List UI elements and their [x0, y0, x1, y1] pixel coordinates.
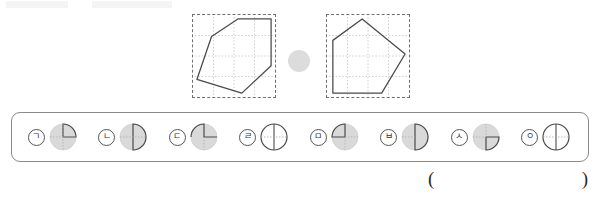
- choice-marker-8: ㅇ: [521, 129, 538, 146]
- grid-lines: [329, 17, 407, 95]
- choice-option-8[interactable]: ㅇ: [521, 121, 572, 153]
- pie-diagram-3: [188, 121, 220, 153]
- figure-right-pentagon: [326, 14, 410, 98]
- grid-lines: [195, 17, 273, 95]
- choice-option-2[interactable]: ㄴ: [98, 121, 149, 153]
- choice-option-1[interactable]: ㄱ: [28, 121, 79, 153]
- paren-open: (: [428, 168, 434, 190]
- choice-marker-5: ㅁ: [310, 129, 327, 146]
- worksheet-page: ㄱ ㄴ ㄷ: [0, 0, 602, 203]
- pie-diagram-7: [470, 121, 502, 153]
- choice-option-6[interactable]: ㅂ: [380, 121, 431, 153]
- choice-marker-1: ㄱ: [28, 129, 45, 146]
- choice-marker-4: ㄹ: [239, 129, 256, 146]
- figure-left-pentagon: [192, 14, 276, 98]
- choices-container: ㄱ ㄴ ㄷ: [11, 112, 589, 162]
- choice-marker-2: ㄴ: [98, 129, 115, 146]
- pie-diagram-6: [399, 121, 431, 153]
- choice-marker-7: ㅅ: [451, 129, 468, 146]
- pie-diagram-2: [117, 121, 149, 153]
- choices-row: ㄱ ㄴ ㄷ: [12, 113, 588, 161]
- answer-blank[interactable]: ( ): [428, 168, 588, 196]
- pie-diagram-4: [258, 121, 290, 153]
- choice-marker-6: ㅂ: [380, 129, 397, 146]
- pentagon-left-outline: [197, 19, 271, 93]
- choice-option-5[interactable]: ㅁ: [310, 121, 361, 153]
- pie-diagram-1: [47, 121, 79, 153]
- figures-area: [0, 8, 602, 104]
- dot-separator: [288, 50, 310, 72]
- choice-option-7[interactable]: ㅅ: [451, 121, 502, 153]
- scan-artifact: [92, 1, 172, 8]
- pie-diagram-5: [329, 121, 361, 153]
- choice-option-4[interactable]: ㄹ: [239, 121, 290, 153]
- paren-close: ): [582, 168, 588, 190]
- choice-marker-3: ㄷ: [169, 129, 186, 146]
- choice-option-3[interactable]: ㄷ: [169, 121, 220, 153]
- scan-artifact: [6, 1, 68, 8]
- pie-diagram-8: [540, 121, 572, 153]
